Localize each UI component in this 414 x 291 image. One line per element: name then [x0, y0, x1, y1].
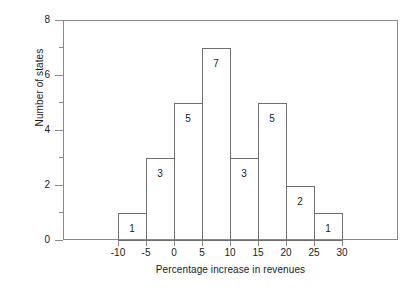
bar-value-label: 2: [285, 196, 315, 207]
y-tick-8: [55, 20, 63, 21]
y-tick-label-6: 6: [30, 70, 50, 80]
bar-value-label: 3: [145, 168, 175, 179]
y-axis-title: Number of states: [34, 13, 45, 163]
bar-value-label: 1: [313, 223, 343, 234]
y-tick-4: [55, 130, 63, 131]
x-tick-label-30: 30: [327, 247, 357, 258]
x-tick-label-25: 25: [299, 247, 329, 258]
histogram-bar: [286, 186, 315, 242]
y-minor-tick-7: [59, 47, 63, 48]
y-tick-2: [55, 185, 63, 186]
y-minor-tick-5: [59, 102, 63, 103]
bar-value-label: 7: [201, 58, 231, 69]
y-tick-6: [55, 75, 63, 76]
x-tick-label-5: 5: [187, 247, 217, 258]
x-tick-label--10: -10: [103, 247, 133, 258]
histogram-bar: [202, 48, 231, 242]
histogram-figure: Number of states Percentage increase in …: [0, 0, 414, 291]
x-tick-label-15: 15: [243, 247, 273, 258]
bar-value-label: 1: [117, 223, 147, 234]
y-tick-label-2: 2: [30, 180, 50, 190]
bar-value-label: 5: [257, 113, 287, 124]
y-tick-label-0: 0: [30, 235, 50, 245]
bar-value-label: 5: [173, 113, 203, 124]
x-tick-label-20: 20: [271, 247, 301, 258]
y-tick-0: [55, 240, 63, 241]
x-tick-label-10: 10: [215, 247, 245, 258]
x-axis-title: Percentage increase in revenues: [63, 264, 398, 275]
y-tick-label-8: 8: [30, 15, 50, 25]
bar-value-label: 3: [229, 168, 259, 179]
x-tick-label--5: -5: [131, 247, 161, 258]
y-minor-tick-1: [59, 212, 63, 213]
y-minor-tick-3: [59, 157, 63, 158]
y-tick-label-4: 4: [30, 125, 50, 135]
x-tick-label-0: 0: [159, 247, 189, 258]
